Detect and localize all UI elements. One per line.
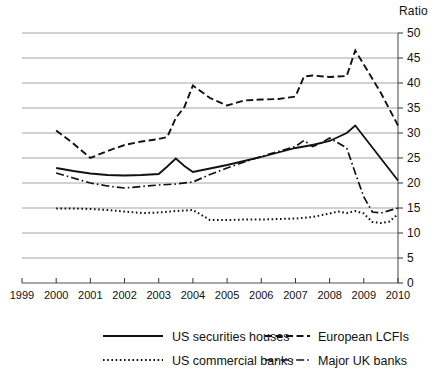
y-tick-label: 10 bbox=[407, 226, 421, 240]
y-axis-unit-label: Ratio bbox=[399, 4, 428, 18]
x-tick-label: 2005 bbox=[215, 289, 239, 301]
x-tick-label: 2007 bbox=[283, 289, 307, 301]
x-axis: 1999200020012002200320042005200620072008… bbox=[10, 278, 410, 301]
y-tick-label: 30 bbox=[407, 126, 421, 140]
legend-label: US commercial banks bbox=[172, 354, 294, 368]
chart-legend: US securities housesEuropean LCFIsUS com… bbox=[103, 330, 409, 368]
y-tick-label: 40 bbox=[407, 76, 421, 90]
series-line-dashed bbox=[56, 51, 398, 159]
ratio-line-chart: Ratio 05101520253035404550 1999200020012… bbox=[0, 0, 434, 371]
y-tick-label: 35 bbox=[407, 101, 421, 115]
x-tick-label: 2006 bbox=[249, 289, 273, 301]
y-tick-label: 45 bbox=[407, 51, 421, 65]
y-tick-label: 5 bbox=[407, 251, 414, 265]
legend-label: Major UK banks bbox=[318, 354, 407, 368]
legend-label: European LCFIs bbox=[318, 330, 409, 344]
x-tick-label: 2000 bbox=[44, 289, 68, 301]
x-tick-label: 2009 bbox=[352, 289, 376, 301]
x-tick-label: 2003 bbox=[146, 289, 170, 301]
y-tick-label: 50 bbox=[407, 26, 421, 40]
x-tick-label: 2008 bbox=[317, 289, 341, 301]
chart-canvas: 05101520253035404550 1999200020012002200… bbox=[0, 0, 434, 371]
y-tick-label: 20 bbox=[407, 176, 421, 190]
y-axis: 05101520253035404550 bbox=[398, 26, 421, 290]
series-line-solid bbox=[56, 126, 398, 181]
y-tick-label: 15 bbox=[407, 201, 421, 215]
x-tick-label: 2001 bbox=[78, 289, 102, 301]
data-series-group bbox=[56, 51, 398, 224]
x-tick-label: 2002 bbox=[112, 289, 136, 301]
x-tick-label: 2010 bbox=[386, 289, 410, 301]
x-tick-label: 1999 bbox=[10, 289, 34, 301]
series-line-dotted bbox=[56, 209, 398, 224]
y-tick-label: 25 bbox=[407, 151, 421, 165]
x-tick-label: 2004 bbox=[181, 289, 205, 301]
